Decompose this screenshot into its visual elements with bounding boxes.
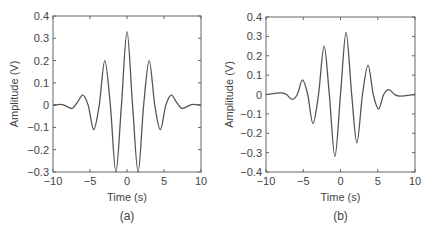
x-tick-label: 0 [124,175,130,187]
y-axis-label: Amplitude (V) [223,61,235,128]
y-tick-label: −0.4 [240,166,262,178]
y-tick-label: −0.3 [27,166,49,178]
x-tick-label: 5 [375,175,381,187]
y-tick-label: −0.1 [27,121,49,133]
y-tick-label: −0.3 [240,147,262,159]
panel-label: (a) [120,209,135,223]
x-tick-label: −5 [297,175,310,187]
x-tick-label: 10 [409,175,421,187]
y-tick-label: −0.2 [240,127,262,139]
x-tick-label: −5 [84,175,97,187]
y-tick-label: 0.3 [34,32,49,44]
y-axis-label: Amplitude (V) [8,61,20,128]
plot-frame [53,16,201,172]
y-tick-label: 0.1 [34,77,49,89]
y-tick-label: 0 [43,99,49,111]
waveform-line [53,32,201,172]
y-tick-label: 0 [256,89,262,101]
y-tick-label: 0.4 [247,11,262,23]
x-tick-label: 5 [161,175,167,187]
waveform-line [266,33,415,157]
y-tick-label: 0.1 [247,69,262,81]
x-axis-label: Time (s) [107,191,147,203]
panel-label: (b) [333,209,348,223]
chart-panel-a: −10−50510−0.3−0.2−0.100.10.20.30.4Time (… [0,0,215,233]
chart-panel-b: −10−50510−0.4−0.3−0.2−0.100.10.20.30.4Ti… [215,0,430,233]
y-tick-label: 0.2 [247,50,262,62]
chart-a-svg: −10−50510−0.3−0.2−0.100.10.20.30.4Time (… [0,0,215,233]
y-tick-label: 0.2 [34,55,49,67]
x-tick-label: 0 [337,175,343,187]
y-tick-label: 0.3 [247,30,262,42]
x-tick-label: 10 [195,175,207,187]
chart-b-svg: −10−50510−0.4−0.3−0.2−0.100.10.20.30.4Ti… [215,0,430,233]
y-tick-label: −0.1 [240,108,262,120]
y-tick-label: −0.2 [27,144,49,156]
x-axis-label: Time (s) [321,191,361,203]
y-tick-label: 0.4 [34,10,49,22]
